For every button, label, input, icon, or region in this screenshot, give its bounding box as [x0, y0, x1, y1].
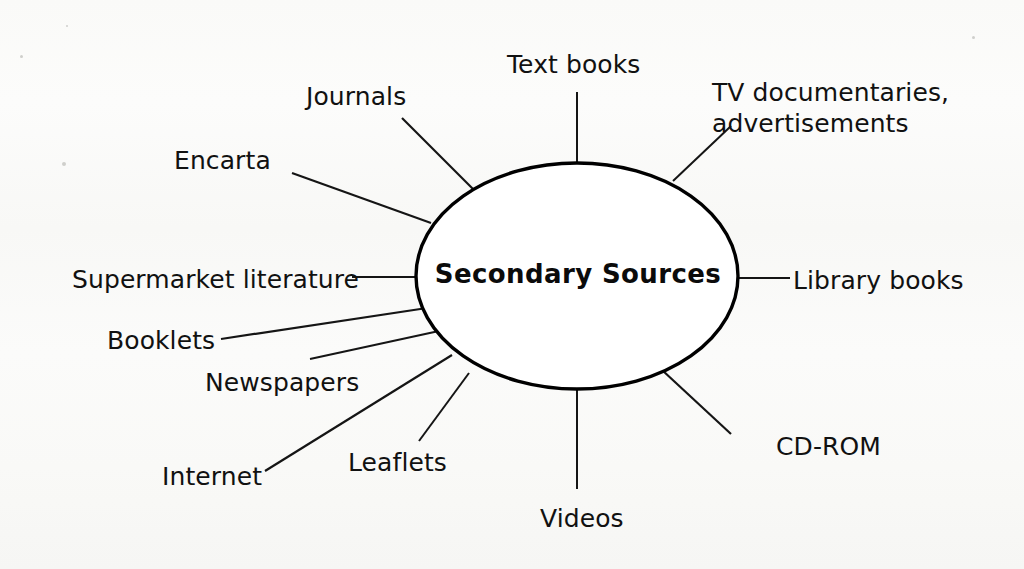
branch-label-library-books: Library books — [793, 266, 964, 295]
branch-line-booklets — [221, 308, 427, 339]
branch-line-newspapers — [310, 331, 439, 359]
branch-label-tv-documentaries: TV documentaries, advertisements — [712, 78, 949, 139]
branch-label-text-books: Text books — [507, 50, 640, 79]
branch-label-booklets: Booklets — [107, 326, 215, 355]
branch-label-encarta: Encarta — [174, 146, 271, 175]
branch-label-leaflets: Leaflets — [348, 448, 447, 477]
branch-label-videos: Videos — [540, 504, 624, 533]
center-node-label: Secondary Sources — [417, 259, 739, 289]
branch-label-supermarket-literature: Supermarket literature — [72, 265, 359, 294]
branch-line-leaflets — [419, 373, 469, 441]
branch-line-cd-rom — [662, 370, 731, 434]
branch-line-journals — [402, 118, 473, 189]
branch-label-journals: Journals — [306, 82, 406, 111]
diagram-page: Secondary Sources Text booksTV documenta… — [0, 0, 1024, 569]
branch-line-encarta — [292, 173, 431, 223]
branch-label-internet: Internet — [162, 462, 262, 491]
branch-label-cd-rom: CD-ROM — [776, 432, 881, 461]
branch-label-newspapers: Newspapers — [205, 368, 359, 397]
